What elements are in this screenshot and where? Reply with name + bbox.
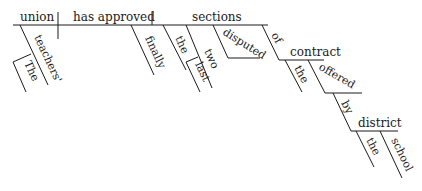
- verb-word: has approved: [73, 10, 155, 24]
- modifier-finally: finally: [142, 34, 169, 71]
- prep-object-district: district: [358, 116, 402, 130]
- subject-word: union: [20, 10, 55, 24]
- modifier-the-1: The: [21, 59, 42, 83]
- preposition-by: by: [338, 98, 356, 117]
- modifier-connector-last: [186, 57, 198, 62]
- modifier-school: school: [388, 136, 416, 174]
- modifier-the-2: the: [172, 34, 191, 56]
- modifier-the-4: the: [363, 135, 383, 157]
- modifier-offered: offered: [317, 60, 358, 91]
- prep-object-contract: contract: [290, 45, 341, 59]
- sentence-diagram: union has approved sections teachers' Th…: [0, 0, 422, 191]
- object-word: sections: [192, 10, 242, 24]
- modifier-the-3: the: [291, 63, 311, 85]
